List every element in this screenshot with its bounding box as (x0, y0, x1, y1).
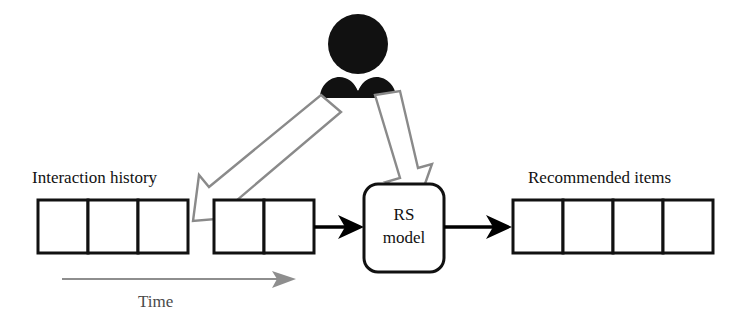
time-axis-label: Time (138, 293, 173, 310)
recommended-items-list (513, 200, 713, 253)
interaction-history-early-items (38, 200, 188, 253)
diagram-root: Interaction history Recommended items Ti… (0, 0, 754, 330)
arrow-right-icon (314, 215, 364, 239)
history-item-box (264, 200, 314, 253)
block-arrow-down-right-icon (375, 91, 432, 198)
recommended-item-box (563, 200, 613, 253)
history-item-box (214, 200, 264, 253)
recommended-items-label: Recommended items (528, 169, 671, 186)
time-axis-arrow-icon (62, 271, 296, 288)
rs-model-label: RS model (364, 204, 444, 250)
interaction-history-recent-items (214, 200, 314, 253)
history-item-box (88, 200, 138, 253)
recommended-item-box (613, 200, 663, 253)
recommended-item-box (663, 200, 713, 253)
rs-model-label-line1: RS (364, 204, 444, 227)
interaction-history-label: Interaction history (32, 169, 157, 186)
diagram-canvas (0, 0, 754, 330)
arrow-right-icon (444, 215, 512, 239)
recommended-item-box (513, 200, 563, 253)
history-item-box (138, 200, 188, 253)
rs-model-label-line2: model (364, 227, 444, 250)
user-icon (320, 14, 396, 98)
history-item-box (38, 200, 88, 253)
